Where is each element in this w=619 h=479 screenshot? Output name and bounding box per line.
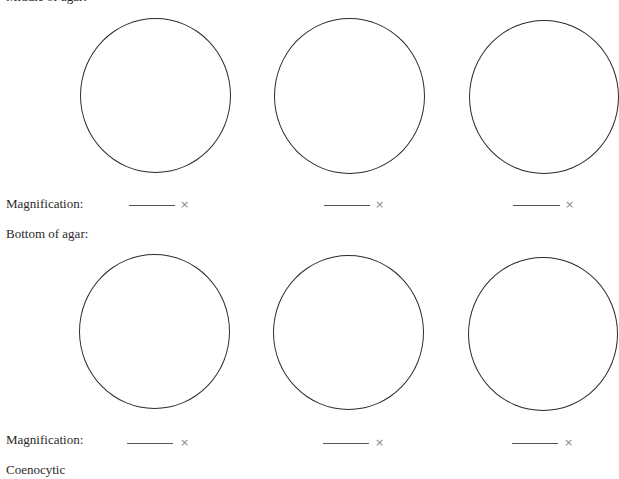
- times-symbol-icon: ×: [375, 199, 384, 210]
- drawing-circle-bottom-2[interactable]: [273, 255, 424, 410]
- times-symbol-icon: ×: [565, 199, 574, 210]
- magnification-field-middle-1[interactable]: [129, 205, 175, 206]
- drawing-circle-bottom-3[interactable]: [468, 257, 618, 411]
- magnification-field-bottom-1[interactable]: [127, 443, 173, 444]
- magnification-label-middle: Magnification:: [6, 197, 83, 210]
- coenocytic-heading: Coenocytic: [6, 463, 65, 476]
- drawing-circle-middle-3[interactable]: [469, 20, 619, 174]
- times-symbol-icon: ×: [564, 437, 573, 448]
- magnification-label-bottom: Magnification:: [6, 433, 83, 446]
- magnification-field-middle-2[interactable]: [324, 205, 370, 206]
- magnification-field-bottom-2[interactable]: [323, 443, 369, 444]
- magnification-field-bottom-3[interactable]: [512, 443, 558, 444]
- drawing-circle-middle-1[interactable]: [80, 18, 231, 173]
- times-symbol-icon: ×: [180, 437, 189, 448]
- bottom-section-heading: Bottom of agar:: [6, 227, 88, 240]
- times-symbol-icon: ×: [375, 437, 384, 448]
- times-symbol-icon: ×: [180, 199, 189, 210]
- drawing-circle-bottom-1[interactable]: [79, 254, 230, 409]
- middle-section-heading: Middle of agar:: [6, 0, 87, 3]
- magnification-field-middle-3[interactable]: [513, 205, 560, 206]
- drawing-circle-middle-2[interactable]: [274, 18, 425, 174]
